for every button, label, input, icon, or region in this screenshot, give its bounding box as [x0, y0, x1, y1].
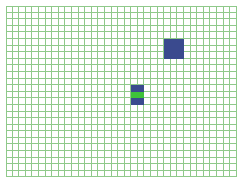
grid-cell[interactable] [230, 151, 237, 158]
grid-cell[interactable] [72, 46, 79, 53]
grid-cell[interactable] [204, 26, 211, 33]
grid-cell[interactable] [52, 46, 59, 53]
grid-cell[interactable] [39, 19, 46, 26]
small-piece-bottom-cell[interactable] [131, 98, 138, 105]
grid-cell[interactable] [59, 6, 66, 13]
grid-cell[interactable] [65, 72, 72, 79]
grid-cell[interactable] [32, 131, 39, 138]
grid-cell[interactable] [13, 19, 20, 26]
grid-cell[interactable] [191, 144, 198, 151]
grid-cell[interactable] [19, 59, 26, 66]
grid-cell[interactable] [32, 144, 39, 151]
grid-cell[interactable] [19, 6, 26, 13]
grid-cell[interactable] [118, 65, 125, 72]
grid-cell[interactable] [210, 46, 217, 53]
grid-cell[interactable] [19, 39, 26, 46]
grid-cell[interactable] [204, 46, 211, 53]
grid-cell[interactable] [184, 13, 191, 20]
grid-cell[interactable] [158, 158, 165, 165]
grid-cell[interactable] [105, 79, 112, 86]
grid-cell[interactable] [138, 52, 145, 59]
grid-cell[interactable] [79, 79, 86, 86]
grid-cell[interactable] [32, 125, 39, 132]
grid-cell[interactable] [177, 26, 184, 33]
grid-cell[interactable] [59, 98, 66, 105]
grid-cell[interactable] [26, 85, 33, 92]
grid-cell[interactable] [65, 144, 72, 151]
grid-cell[interactable] [144, 65, 151, 72]
grid-cell[interactable] [65, 158, 72, 165]
grid-cell[interactable] [118, 92, 125, 99]
grid-cell[interactable] [19, 46, 26, 53]
grid-cell[interactable] [79, 13, 86, 20]
grid-cell[interactable] [19, 138, 26, 145]
grid-cell[interactable] [32, 112, 39, 119]
grid-cell[interactable] [158, 32, 165, 39]
grid-cell[interactable] [184, 26, 191, 33]
grid-cell[interactable] [39, 85, 46, 92]
grid-cell[interactable] [85, 13, 92, 20]
grid-cell[interactable] [92, 13, 99, 20]
grid-cell[interactable] [105, 59, 112, 66]
grid-cell[interactable] [39, 138, 46, 145]
grid-cell[interactable] [151, 39, 158, 46]
grid-cell[interactable] [32, 158, 39, 165]
grid-cell[interactable] [112, 26, 119, 33]
grid-cell[interactable] [6, 79, 13, 86]
grid-cell[interactable] [19, 158, 26, 165]
grid-cell[interactable] [177, 158, 184, 165]
grid-cell[interactable] [224, 26, 231, 33]
grid-cell[interactable] [217, 92, 224, 99]
grid-cell[interactable] [224, 92, 231, 99]
grid-cell[interactable] [59, 72, 66, 79]
grid-cell[interactable] [158, 151, 165, 158]
grid-cell[interactable] [26, 72, 33, 79]
grid-cell[interactable] [164, 98, 171, 105]
grid-cell[interactable] [118, 125, 125, 132]
grid-cell[interactable] [204, 118, 211, 125]
grid-cell[interactable] [46, 118, 53, 125]
grid-cell[interactable] [217, 131, 224, 138]
grid-cell[interactable] [85, 79, 92, 86]
grid-cell[interactable] [125, 59, 132, 66]
grid-cell[interactable] [98, 112, 105, 119]
grid-cell[interactable] [59, 131, 66, 138]
grid-cell[interactable] [125, 13, 132, 20]
grid-cell[interactable] [39, 65, 46, 72]
grid-cell[interactable] [210, 118, 217, 125]
grid-cell[interactable] [98, 164, 105, 171]
grid-cell[interactable] [112, 79, 119, 86]
grid-cell[interactable] [217, 19, 224, 26]
grid-cell[interactable] [217, 158, 224, 165]
grid-cell[interactable] [177, 6, 184, 13]
grid-cell[interactable] [158, 85, 165, 92]
grid-cell[interactable] [98, 138, 105, 145]
grid-cell[interactable] [92, 92, 99, 99]
grid-cell[interactable] [105, 144, 112, 151]
grid-cell[interactable] [204, 164, 211, 171]
grid-cell[interactable] [144, 131, 151, 138]
grid-cell[interactable] [85, 72, 92, 79]
grid-cell[interactable] [52, 13, 59, 20]
grid-cell[interactable] [112, 158, 119, 165]
grid-cell[interactable] [138, 171, 145, 178]
grid-cell[interactable] [92, 79, 99, 86]
grid-cell[interactable] [138, 131, 145, 138]
grid-cell[interactable] [118, 6, 125, 13]
grid-cell[interactable] [79, 59, 86, 66]
grid-cell[interactable] [151, 138, 158, 145]
small-piece-bottom-cell[interactable] [138, 98, 145, 105]
grid-cell[interactable] [85, 164, 92, 171]
grid-cell[interactable] [184, 171, 191, 178]
grid-cell[interactable] [191, 59, 198, 66]
grid-cell[interactable] [131, 125, 138, 132]
grid-cell[interactable] [118, 171, 125, 178]
grid-cell[interactable] [13, 158, 20, 165]
grid-cell[interactable] [19, 72, 26, 79]
grid-cell[interactable] [164, 65, 171, 72]
grid-cell[interactable] [105, 65, 112, 72]
grid-cell[interactable] [46, 151, 53, 158]
grid-cell[interactable] [125, 164, 132, 171]
grid-cell[interactable] [13, 65, 20, 72]
grid-cell[interactable] [32, 151, 39, 158]
